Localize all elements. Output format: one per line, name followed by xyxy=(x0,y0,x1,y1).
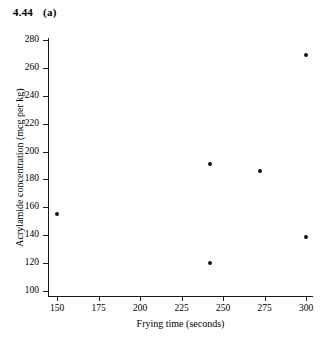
y-axis-tick xyxy=(43,40,48,41)
y-axis-tick xyxy=(43,124,48,125)
x-axis-tick xyxy=(57,296,58,301)
data-point xyxy=(304,235,308,239)
x-axis-tick-label: 275 xyxy=(245,304,285,314)
y-axis-tick xyxy=(43,207,48,208)
y-axis-line xyxy=(48,38,49,296)
x-axis-tick-label: 225 xyxy=(162,304,202,314)
x-axis-tick-label: 150 xyxy=(37,304,77,314)
y-axis-tick xyxy=(43,291,48,292)
y-axis-tick xyxy=(43,235,48,236)
data-point xyxy=(258,169,262,173)
figure-container: 4.44(a) 100120140160180200220240260280 1… xyxy=(0,0,322,338)
data-point xyxy=(304,53,308,57)
x-axis-tick-label: 175 xyxy=(79,304,119,314)
y-axis-tick xyxy=(43,263,48,264)
y-axis-tick xyxy=(43,96,48,97)
x-axis-tick xyxy=(265,296,266,301)
y-axis-tick xyxy=(43,68,48,69)
y-axis-tick xyxy=(43,179,48,180)
y-axis-tick xyxy=(43,152,48,153)
x-axis-tick-label: 250 xyxy=(203,304,243,314)
x-axis-tick xyxy=(182,296,183,301)
x-axis-tick xyxy=(140,296,141,301)
data-point xyxy=(208,162,212,166)
x-axis-tick xyxy=(223,296,224,301)
data-point xyxy=(55,212,59,216)
x-axis-tick xyxy=(99,296,100,301)
x-axis-line xyxy=(48,296,313,297)
x-axis-tick-label: 300 xyxy=(286,304,322,314)
y-axis-title: Acrylamide concentration (mcg per kg) xyxy=(14,43,25,293)
scatter-plot: 100120140160180200220240260280 150175200… xyxy=(0,0,322,338)
x-axis-title: Frying time (seconds) xyxy=(48,318,313,329)
x-axis-tick-label: 200 xyxy=(120,304,160,314)
data-point xyxy=(208,261,212,265)
x-axis-tick xyxy=(306,296,307,301)
